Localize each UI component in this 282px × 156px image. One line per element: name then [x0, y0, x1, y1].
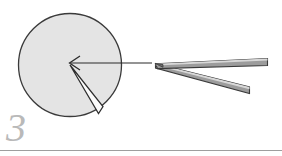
figure-illustration: [0, 0, 282, 156]
step-number: 3: [6, 108, 26, 148]
tweezers-upper-arm: [156, 59, 268, 69]
figure-panel: 3: [0, 0, 282, 156]
